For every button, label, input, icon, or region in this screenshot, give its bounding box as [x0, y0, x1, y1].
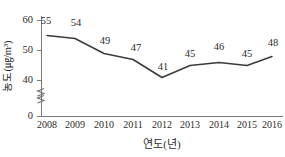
point-label-2011: 47	[131, 42, 142, 53]
x-tick-label-2010: 2010	[94, 119, 114, 130]
x-tick-label-2016: 2016	[262, 119, 282, 130]
x-tick-label-2013: 2013	[180, 119, 200, 130]
point-label-2008: 55	[41, 15, 52, 26]
x-tick-label-2009: 2009	[65, 119, 85, 130]
line-chart: 60 50 40 0 농도(㎍/m³) 2008 2009 2010 2011 …	[0, 0, 285, 157]
y-axis-title: 농도(㎍/m³)	[2, 40, 14, 92]
point-label-2013: 45	[185, 48, 196, 59]
point-label-2016: 48	[268, 37, 279, 48]
y-tick-label-50: 50	[23, 44, 34, 55]
x-axis-title: 연도(년)	[143, 138, 181, 151]
chart-canvas: 60 50 40 0 농도(㎍/m³) 2008 2009 2010 2011 …	[0, 0, 285, 157]
point-label-2014: 46	[214, 41, 225, 52]
x-tick-label-2008: 2008	[37, 119, 57, 130]
point-label-2010: 49	[100, 35, 111, 46]
y-tick-label-60: 60	[23, 14, 34, 25]
y-tick-label-0: 0	[28, 110, 33, 121]
x-tick-label-2011: 2011	[123, 119, 143, 130]
x-tick-label-2015: 2015	[237, 119, 257, 130]
y-tick-label-40: 40	[23, 74, 34, 85]
x-tick-label-2014: 2014	[209, 119, 229, 130]
axis-break-icon	[38, 89, 45, 104]
point-label-2012: 41	[158, 61, 169, 72]
point-label-2015: 45	[242, 48, 253, 59]
x-tick-label-2012: 2012	[152, 119, 172, 130]
point-label-2009: 54	[71, 17, 82, 28]
